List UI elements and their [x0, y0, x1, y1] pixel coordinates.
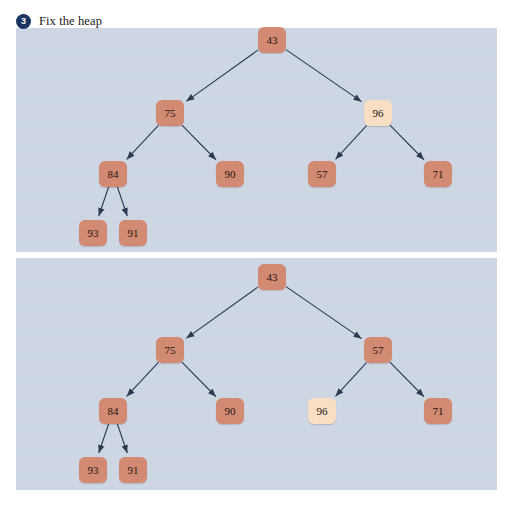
- heap-node-label: 84: [108, 405, 119, 417]
- step-number-badge: 3: [16, 14, 31, 29]
- heap-node-label: 93: [88, 227, 99, 239]
- heap-node-label: 43: [267, 34, 278, 46]
- heap-node-84: 84: [99, 398, 127, 424]
- heap-node-label: 75: [165, 344, 176, 356]
- heap-node-label: 96: [317, 405, 328, 417]
- heap-node-label: 91: [128, 464, 139, 476]
- tree-edge-arrowhead: [122, 207, 128, 216]
- heap-node-75: 75: [156, 100, 184, 126]
- heap-node-label: 84: [108, 168, 119, 180]
- heap-node-96: 96: [364, 100, 392, 126]
- tree-edge-arrowhead: [353, 331, 361, 338]
- step-title: Fix the heap: [39, 14, 102, 29]
- heap-node-label: 75: [165, 107, 176, 119]
- tree-edge-arrowhead: [186, 331, 194, 338]
- tree-canvas-after: 437557849096719391: [16, 258, 497, 490]
- tree-edge-arrowhead: [98, 207, 104, 216]
- step-heading: 3 Fix the heap: [16, 14, 102, 29]
- tree-edge: [286, 50, 362, 102]
- tree-edge-arrowhead: [122, 444, 128, 453]
- heap-node-43: 43: [258, 264, 286, 290]
- panel-after-swap: 437557849096719391: [16, 258, 497, 490]
- tree-canvas-before: 437596849057719391: [16, 28, 497, 252]
- tree-edge-arrowhead: [353, 94, 361, 101]
- tree-edge-arrowhead: [186, 94, 194, 101]
- heap-node-label: 57: [373, 344, 384, 356]
- heap-node-43: 43: [258, 27, 286, 53]
- heap-node-84: 84: [99, 161, 127, 187]
- heap-node-96: 96: [308, 398, 336, 424]
- heap-node-label: 43: [267, 271, 278, 283]
- heap-node-91: 91: [119, 457, 147, 483]
- heap-node-57: 57: [364, 337, 392, 363]
- heap-node-label: 71: [433, 405, 444, 417]
- heap-node-label: 57: [317, 168, 328, 180]
- heap-node-90: 90: [216, 161, 244, 187]
- tree-edge: [186, 287, 258, 338]
- heap-node-75: 75: [156, 337, 184, 363]
- heap-node-label: 90: [225, 168, 236, 180]
- tree-edges: [16, 28, 497, 252]
- panel-before-swap: 437596849057719391: [16, 28, 497, 252]
- heap-node-71: 71: [424, 161, 452, 187]
- heap-figure: 3 Fix the heap 437596849057719391 437557…: [0, 0, 514, 508]
- heap-node-label: 93: [88, 464, 99, 476]
- heap-node-93: 93: [79, 220, 107, 246]
- heap-node-label: 71: [433, 168, 444, 180]
- heap-node-91: 91: [119, 220, 147, 246]
- heap-node-57: 57: [308, 161, 336, 187]
- heap-node-93: 93: [79, 457, 107, 483]
- heap-node-label: 91: [128, 227, 139, 239]
- tree-edge-arrowhead: [98, 444, 104, 453]
- heap-node-90: 90: [216, 398, 244, 424]
- tree-edge: [186, 50, 258, 101]
- tree-edges: [16, 258, 497, 490]
- heap-node-71: 71: [424, 398, 452, 424]
- heap-node-label: 90: [225, 405, 236, 417]
- heap-node-label: 96: [373, 107, 384, 119]
- tree-edge: [286, 287, 362, 339]
